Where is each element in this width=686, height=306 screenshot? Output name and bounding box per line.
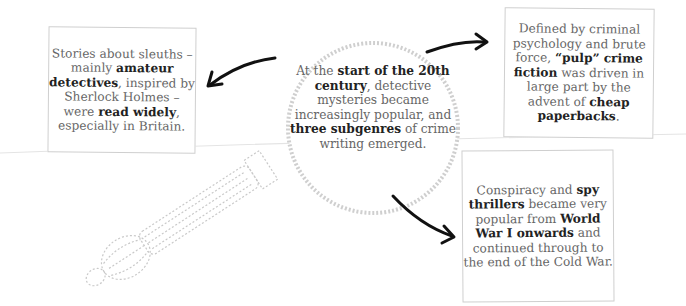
intro-text: At the start of the 20th century, detect… <box>289 64 457 151</box>
highlight-text: three subgenres <box>290 122 401 136</box>
body-text: At the <box>296 64 337 78</box>
spy-box: Conspiracy and spy thrillers became very… <box>461 149 614 302</box>
body-text: Conspiracy and <box>476 182 576 197</box>
sleuths-box: Stories about sleuths – mainly amateur d… <box>47 26 196 153</box>
pulp-box: Defined by criminal psychology and brute… <box>503 7 654 139</box>
highlight-text: read widely <box>98 104 176 119</box>
diagram: At the start of the 20th century, detect… <box>0 0 686 306</box>
body-text: . <box>616 110 620 124</box>
